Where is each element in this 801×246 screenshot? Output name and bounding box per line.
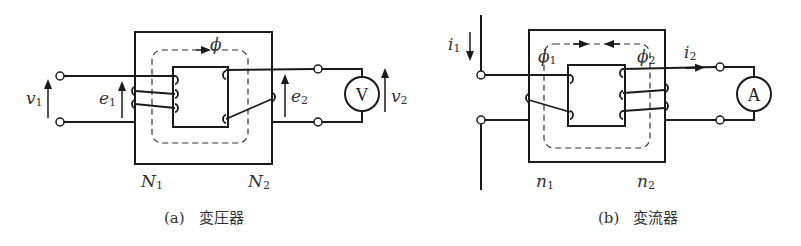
secondary-coil [620,69,668,119]
secondary-terminal-top [716,63,724,71]
meter-wire-bottom [322,111,362,122]
secondary-wire-top [226,69,314,70]
panel-b-current-transformer: A i1 ϕ1 ϕ2 i2 n1 n2 (b)変流器 [448,15,771,227]
flux-path [544,44,650,148]
core-window [173,67,228,127]
label-n2: n2 [637,171,655,192]
panel-a-voltage-transformer: V v1 e1 e2 v2 ϕ N1 N2 (a)変圧器 [26,32,408,227]
secondary-coil [223,71,275,123]
label-N2: N2 [247,171,270,192]
meter-wire-top [724,67,754,77]
secondary-wire-top [623,67,716,69]
label-n1: n1 [536,171,554,192]
meter-wire-bottom [724,111,754,120]
primary-terminal-bottom [56,118,64,126]
label-i2: i2 [684,42,696,63]
label-flux: ϕ [210,34,222,54]
ammeter-icon: A [737,77,771,111]
primary-terminal-top [477,71,485,79]
label-v2: v2 [391,86,408,107]
flux-path [152,50,248,143]
label-phi1: ϕ1 [538,46,557,67]
primary-terminal-top [56,72,64,80]
ammeter-symbol: A [748,85,761,105]
label-phi2: ϕ2 [637,46,656,67]
i2-arrow-icon [685,68,700,69]
label-v1: v1 [26,88,43,109]
label-N1: N1 [140,171,163,192]
caption-b: (b)変流器 [598,209,678,227]
secondary-terminal-bottom [716,116,724,124]
meter-wire-top [322,69,362,78]
primary-coil [132,76,178,112]
label-e1: e1 [99,88,116,109]
transformer-diagrams: V v1 e1 e2 v2 ϕ N1 N2 (a)変圧器 [0,0,801,246]
label-i1: i1 [448,34,460,55]
core-window [568,65,625,126]
label-e2: e2 [291,86,308,107]
secondary-terminal-top [314,65,322,73]
caption-a: (a)変圧器 [164,209,244,227]
primary-terminal-bottom [477,116,485,124]
primary-coil [526,75,573,119]
voltmeter-symbol: V [356,85,369,105]
voltmeter-icon: V [345,77,379,111]
secondary-terminal-bottom [314,118,322,126]
